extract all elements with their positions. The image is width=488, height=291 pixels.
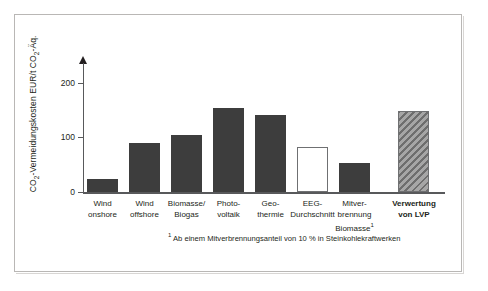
x-label-mitverbrennung-text: Mitver- brennung Biomasse bbox=[335, 199, 371, 233]
y-axis-title-sub2: 2 bbox=[33, 51, 40, 55]
bar-biomasse-biogas bbox=[171, 135, 202, 192]
x-label-mitverbrennung-footnote-marker: 1 bbox=[370, 222, 373, 228]
y-axis-title-suffix: -Äq. bbox=[28, 35, 38, 51]
bar-eeg-durchschnitt bbox=[297, 147, 328, 192]
bar-mitverbrennung-biomasse bbox=[339, 163, 370, 192]
bar-photovoltaik bbox=[213, 108, 244, 192]
y-tick-label-100: 100 bbox=[35, 133, 75, 142]
bar-verwertung-von-lvp bbox=[398, 111, 429, 192]
x-axis-baseline bbox=[83, 192, 445, 194]
y-tick-100 bbox=[78, 137, 84, 138]
footnote: 1 Ab einem Mitverbrennungsanteil von 10 … bbox=[168, 232, 401, 243]
bar-wind-offshore bbox=[129, 143, 160, 192]
chart-plot-area: CO2-Vermeidungskosten EUR/t CO2-Äq. 0 10… bbox=[0, 0, 488, 291]
bar-geothermie bbox=[255, 115, 286, 192]
y-tick-0 bbox=[78, 192, 84, 193]
bar-wind-onshore bbox=[87, 179, 118, 192]
y-tick-label-200: 200 bbox=[35, 79, 75, 88]
y-tick-label-0: 0 bbox=[35, 188, 75, 197]
y-tick-200 bbox=[78, 83, 84, 84]
y-axis-title-mid: -Vermeidungskosten EUR/t CO bbox=[28, 55, 38, 175]
y-axis-title: CO2-Vermeidungskosten EUR/t CO2-Äq. bbox=[28, 34, 40, 194]
y-axis-title-sub1: 2 bbox=[33, 176, 40, 180]
x-label-mitverbrennung-biomasse: Mitver- brennung Biomasse1 bbox=[326, 199, 383, 234]
footnote-text: Ab einem Mitverbrennungsanteil von 10 % … bbox=[171, 234, 400, 243]
figure-container: CO2-Vermeidungskosten EUR/t CO2-Äq. 0 10… bbox=[0, 0, 488, 291]
x-label-verwertung-von-lvp: Verwertung von LVP bbox=[384, 199, 444, 220]
